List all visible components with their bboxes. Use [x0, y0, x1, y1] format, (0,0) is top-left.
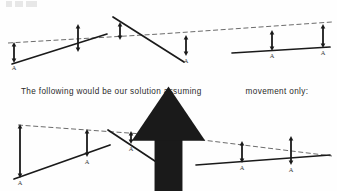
solid-line-segment — [12, 34, 107, 64]
arrow-up-down-icon — [0, 82, 337, 191]
solid-line-segment — [113, 17, 184, 62]
solid-line-segment — [232, 47, 330, 53]
arrow-head-up-icon — [184, 35, 189, 39]
arrow-head-down-icon — [184, 52, 189, 56]
dashed-reference-line — [160, 22, 332, 34]
scanned-document-page: AAAA AAAAA The following would be our so… — [0, 0, 337, 191]
point-label-a: A — [184, 57, 189, 64]
arrow-head-up-icon — [321, 24, 326, 28]
upper-diagram-group: AAAA — [8, 17, 332, 71]
point-label-a: A — [321, 49, 326, 56]
point-label-a: A — [270, 52, 275, 59]
point-label-a: A — [12, 64, 17, 71]
caption-line: The following would be our solution assu… — [0, 82, 337, 100]
arrow-head-up-icon — [76, 24, 81, 28]
arrow-head-down-icon — [76, 48, 81, 52]
arrow-head-down-icon — [118, 36, 123, 40]
arrow-head-up-icon — [270, 30, 275, 34]
